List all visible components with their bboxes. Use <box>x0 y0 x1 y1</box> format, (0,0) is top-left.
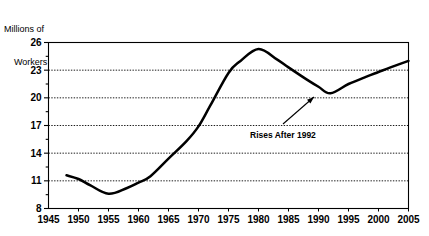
annotation-text: Rises After 1992 <box>250 130 316 140</box>
y-tick-label: 8 <box>36 203 42 214</box>
y-tick-label: 11 <box>31 175 42 186</box>
x-tick-label: 2000 <box>367 214 390 225</box>
x-tick-label: 1945 <box>37 214 60 225</box>
x-tick-label: 1965 <box>157 214 180 225</box>
x-tick-label: 1955 <box>97 214 120 225</box>
y-tick-label: 23 <box>30 65 42 76</box>
x-tick-label: 1950 <box>67 214 90 225</box>
x-tick-label: 1975 <box>217 214 240 225</box>
y-tick-label: 17 <box>30 120 42 131</box>
x-tick-label: 2005 <box>397 214 420 225</box>
x-tick-label: 1985 <box>277 214 300 225</box>
gridlines-group <box>49 70 409 181</box>
data-series-line <box>67 49 409 194</box>
y-axis-ticks <box>44 43 49 209</box>
x-tick-label: 1960 <box>127 214 150 225</box>
y-tick-label: 14 <box>30 148 42 159</box>
y-tick-label: 26 <box>30 37 42 48</box>
annotation-rises-after-1992: Rises After 1992 <box>250 97 316 140</box>
y-axis-tick-labels: 2623201714118 <box>30 37 42 214</box>
x-tick-label: 1980 <box>247 214 270 225</box>
x-axis-tick-labels: 1945195019551960196519701975198019851990… <box>37 214 420 225</box>
x-tick-label: 1970 <box>187 214 210 225</box>
employment-line-chart: Millions of Workers 2623201714118 194519… <box>0 0 429 236</box>
x-tick-label: 1995 <box>337 214 360 225</box>
y-tick-label: 20 <box>30 92 42 103</box>
series-path <box>67 49 409 194</box>
x-tick-label: 1990 <box>307 214 330 225</box>
chart-plot-svg: 2623201714118 19451950195519601965197019… <box>0 0 429 236</box>
